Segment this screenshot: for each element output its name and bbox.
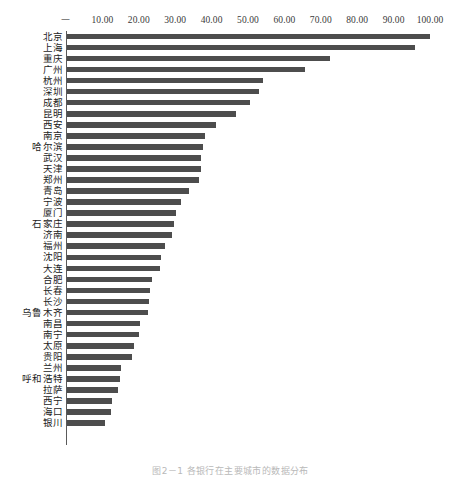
category-label: 沈阳 xyxy=(43,252,64,262)
category-label: 贵阳 xyxy=(43,352,64,362)
x-axis-tick-label: 50.00 xyxy=(237,13,259,27)
bar-row: 南京 xyxy=(0,130,461,141)
bar xyxy=(67,45,415,51)
bar-row: 长春 xyxy=(0,285,461,296)
x-axis-tick-label: 100.00 xyxy=(417,13,444,27)
category-label: 银川 xyxy=(43,418,64,428)
category-label: 成都 xyxy=(43,98,64,108)
bar-row: 兰州 xyxy=(0,362,461,373)
bar-row: 武汉 xyxy=(0,153,461,164)
bar-row: 北京 xyxy=(0,31,461,42)
bar-row: 广州 xyxy=(0,64,461,75)
bar-row: 宁波 xyxy=(0,197,461,208)
bar-row: 拉萨 xyxy=(0,385,461,396)
bar-row: 深圳 xyxy=(0,86,461,97)
category-label: 郑州 xyxy=(43,175,64,185)
bar xyxy=(67,133,205,139)
category-label: 济南 xyxy=(43,230,64,240)
category-label: 武汉 xyxy=(43,153,64,163)
bar xyxy=(67,310,148,316)
category-label: 拉萨 xyxy=(43,385,64,395)
bar xyxy=(67,255,161,261)
category-label: 大连 xyxy=(43,264,64,274)
category-label: 呼和浩特 xyxy=(22,374,64,384)
bar xyxy=(67,343,134,349)
category-label: 杭州 xyxy=(43,76,64,86)
bar xyxy=(67,332,139,338)
bar xyxy=(67,321,140,327)
bar xyxy=(67,89,259,95)
category-label: 福州 xyxy=(43,241,64,251)
bar xyxy=(67,56,330,62)
bar-row: 昆明 xyxy=(0,108,461,119)
category-label: 南宁 xyxy=(43,330,64,340)
x-axis-tick-label: － xyxy=(60,13,71,27)
bar xyxy=(67,177,199,183)
bar xyxy=(67,398,112,404)
category-label: 哈尔滨 xyxy=(32,142,64,152)
category-label: 合肥 xyxy=(43,275,64,285)
category-label: 兰州 xyxy=(43,363,64,373)
bar xyxy=(67,111,236,117)
x-axis-tick-label: 70.00 xyxy=(310,13,332,27)
category-label: 深圳 xyxy=(43,87,64,97)
bar-row: 西宁 xyxy=(0,396,461,407)
bar xyxy=(67,67,305,73)
bar-row: 南宁 xyxy=(0,329,461,340)
bar-row: 厦门 xyxy=(0,208,461,219)
category-label: 海口 xyxy=(43,407,64,417)
category-label: 乌鲁木齐 xyxy=(22,308,64,318)
bar xyxy=(67,34,430,40)
bar-row: 杭州 xyxy=(0,75,461,86)
bar xyxy=(67,232,172,238)
category-label: 长沙 xyxy=(43,297,64,307)
bar-row: 贵阳 xyxy=(0,351,461,362)
bar-row: 合肥 xyxy=(0,274,461,285)
bar xyxy=(67,243,165,249)
bar xyxy=(67,166,201,172)
bar xyxy=(67,155,201,161)
bar-row: 青岛 xyxy=(0,186,461,197)
bar xyxy=(67,221,174,227)
x-axis-tick-label: 90.00 xyxy=(383,13,405,27)
category-label: 天津 xyxy=(43,164,64,174)
bar-row: 太原 xyxy=(0,340,461,351)
bar xyxy=(67,354,132,360)
bar-row: 重庆 xyxy=(0,53,461,64)
bar-chart-figure: －10.0020.0030.0040.0050.0060.0070.0080.0… xyxy=(0,0,461,478)
bar-row: 海口 xyxy=(0,407,461,418)
category-label: 西安 xyxy=(43,120,64,130)
bar xyxy=(67,299,149,305)
x-axis-tick-label: 20.00 xyxy=(128,13,150,27)
bar-row: 沈阳 xyxy=(0,252,461,263)
bar xyxy=(67,376,120,382)
bar-row: 济南 xyxy=(0,230,461,241)
category-label: 南京 xyxy=(43,131,64,141)
x-axis-tick-label: 30.00 xyxy=(164,13,186,27)
bar-row: 哈尔滨 xyxy=(0,141,461,152)
bar-row: 西安 xyxy=(0,119,461,130)
bar-row: 郑州 xyxy=(0,175,461,186)
category-label: 厦门 xyxy=(43,208,64,218)
category-label: 上海 xyxy=(43,43,64,53)
bar xyxy=(67,277,152,283)
bar-row: 乌鲁木齐 xyxy=(0,307,461,318)
x-axis-tick-label: 80.00 xyxy=(346,13,368,27)
x-axis-tick-label: 10.00 xyxy=(91,13,113,27)
category-label: 南昌 xyxy=(43,319,64,329)
plot-area: 北京上海重庆广州杭州深圳成都昆明西安南京哈尔滨武汉天津郑州青岛宁波厦门石家庄济南… xyxy=(0,31,461,451)
x-axis-tick-label: 60.00 xyxy=(273,13,295,27)
bar-row: 呼和浩特 xyxy=(0,373,461,384)
bar xyxy=(67,100,250,106)
bar-row: 天津 xyxy=(0,164,461,175)
category-label: 青岛 xyxy=(43,186,64,196)
bar-row: 大连 xyxy=(0,263,461,274)
bar xyxy=(67,144,203,150)
bar xyxy=(67,409,111,415)
bar xyxy=(67,387,118,393)
bar xyxy=(67,122,216,128)
bar xyxy=(67,188,189,194)
bar xyxy=(67,420,105,426)
bar-row: 石家庄 xyxy=(0,219,461,230)
category-label: 重庆 xyxy=(43,54,64,64)
